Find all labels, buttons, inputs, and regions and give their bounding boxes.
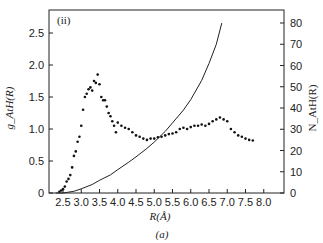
data-point (168, 133, 171, 136)
y-right-axis-label: N_AtH(R) (306, 84, 319, 131)
y-left-tick-label: 2.0 (29, 59, 44, 71)
y-right-tick-label: 80 (290, 17, 302, 29)
data-point (67, 178, 70, 181)
x-tick-label: 4.0 (110, 196, 125, 208)
data-point (116, 121, 119, 124)
data-point (73, 155, 76, 158)
plot-frame (49, 10, 284, 193)
data-point (91, 89, 94, 92)
data-point (62, 188, 65, 191)
x-tick-label: 3.0 (74, 196, 89, 208)
data-point (78, 135, 81, 138)
data-point (149, 137, 152, 140)
data-point (230, 128, 233, 131)
panel-label: (ii) (57, 14, 71, 27)
y-right-tick-label: 20 (290, 145, 302, 157)
data-point (197, 125, 200, 128)
data-point (98, 83, 101, 86)
data-point (69, 174, 72, 177)
data-point (208, 123, 211, 126)
y-left-axis-label: g_AtH(R) (3, 86, 16, 129)
data-point (111, 120, 114, 123)
y-left-tick-label: 0 (38, 187, 44, 199)
data-point (171, 132, 174, 135)
x-tick-label: 4.5 (128, 196, 143, 208)
x-axis-ticks: 2.53.03.54.04.55.05.56.06.57.07.58.0 (55, 189, 271, 208)
data-point (179, 128, 182, 131)
data-point (175, 131, 178, 134)
data-point (226, 120, 229, 123)
data-point (164, 134, 167, 137)
data-point (74, 150, 77, 153)
y-right-tick-label: 40 (290, 102, 302, 114)
y-left-tick-label: 1.0 (29, 123, 44, 135)
data-point (237, 134, 240, 137)
data-point (104, 99, 107, 102)
x-tick-label: 2.5 (55, 196, 70, 208)
x-tick-label: 6.0 (183, 196, 198, 208)
data-point (93, 80, 96, 83)
y-right-tick-label: 50 (290, 81, 302, 93)
data-point (222, 118, 225, 121)
data-point (135, 134, 138, 137)
data-point (71, 166, 74, 169)
data-point (248, 139, 251, 142)
y-left-tick-label: 0.5 (29, 155, 44, 167)
data-point (113, 125, 116, 128)
data-point (138, 135, 141, 138)
data-point (189, 126, 192, 129)
data-point (193, 125, 196, 128)
y-left-tick-label: 1.5 (29, 91, 44, 103)
y-right-axis-ticks: 01020304050607080 (280, 17, 302, 199)
data-point (244, 137, 247, 140)
data-point (96, 73, 99, 76)
data-point (85, 93, 88, 96)
data-point (127, 128, 130, 131)
data-point (120, 125, 123, 128)
chart: 2.53.03.54.04.55.05.56.06.57.07.58.0 00.… (0, 0, 323, 243)
x-tick-label: 6.5 (201, 196, 216, 208)
y-left-tick-label: 2.5 (29, 27, 44, 39)
data-point (115, 131, 118, 134)
g-series-points (58, 73, 254, 193)
x-tick-label: 5.0 (147, 196, 162, 208)
data-point (87, 88, 90, 91)
data-point (241, 135, 244, 138)
data-point (106, 105, 109, 108)
data-point (89, 86, 92, 89)
x-tick-label: 7.5 (238, 196, 253, 208)
x-tick-label: 8.0 (256, 196, 271, 208)
data-point (204, 125, 207, 128)
data-point (82, 109, 85, 112)
data-point (252, 139, 255, 142)
data-point (95, 82, 98, 85)
caption: (a) (156, 228, 169, 241)
x-axis-label: R(Å) (149, 210, 171, 223)
x-tick-label: 3.5 (92, 196, 107, 208)
data-point (131, 131, 134, 134)
y-right-tick-label: 30 (290, 123, 302, 135)
data-point (124, 126, 127, 129)
data-point (76, 141, 79, 144)
x-tick-label: 7.0 (220, 196, 235, 208)
data-point (233, 131, 236, 134)
data-point (107, 112, 110, 115)
y-right-tick-label: 60 (290, 60, 302, 72)
data-point (200, 123, 203, 126)
data-point (100, 96, 103, 99)
data-point (211, 120, 214, 123)
y-right-tick-label: 0 (290, 187, 296, 199)
data-point (80, 125, 83, 128)
data-point (65, 180, 68, 183)
data-point (186, 128, 189, 131)
data-point (219, 116, 222, 119)
data-point (153, 137, 156, 140)
x-tick-label: 5.5 (165, 196, 180, 208)
data-point (109, 115, 112, 118)
data-point (146, 139, 149, 142)
y-right-tick-label: 10 (290, 166, 302, 178)
n-series-line (56, 23, 222, 193)
data-point (64, 185, 67, 188)
data-point (182, 126, 185, 129)
data-point (142, 137, 145, 140)
